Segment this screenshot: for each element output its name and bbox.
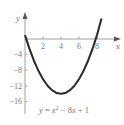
x-tick-label: 6 (77, 42, 81, 51)
x-tick-label: 2 (41, 42, 45, 51)
parabola-chart: 2 4 6 8 −4 −8 −12 −16 y x y = x2 − 8x + … (0, 0, 124, 125)
y-tick-label: −4 (13, 50, 22, 59)
x-axis-label: x (115, 41, 120, 51)
y-tick-label: −16 (9, 97, 22, 106)
y-axis-label: y (15, 13, 20, 23)
y-tick-label: −8 (13, 66, 22, 75)
x-tick-label: 8 (95, 42, 99, 51)
parabola-curve (25, 18, 102, 93)
y-axis-arrow-icon (23, 12, 28, 19)
y-tick-label: −12 (9, 82, 22, 91)
x-tick-label: 4 (59, 42, 63, 51)
equation-label: y = x2 − 8x + 1 (38, 105, 89, 115)
